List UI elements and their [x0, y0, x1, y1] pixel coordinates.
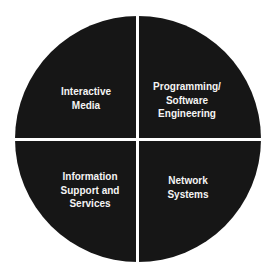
quadrant-label-line: Network	[167, 174, 208, 188]
quadrant-interactive-media: Interactive Media	[61, 85, 111, 112]
quadrant-network-systems: Network Systems	[167, 174, 208, 201]
quadrant-programming-software-engineering: Programming/ Software Engineering	[153, 80, 221, 121]
quadrant-label-line: Software	[153, 94, 221, 108]
quadrant-label-line: Support and	[61, 184, 120, 198]
quadrant-label-line: Systems	[167, 188, 208, 202]
quadrant-diagram: Interactive Media Programming/ Software …	[0, 0, 278, 275]
horizontal-divider	[0, 138, 278, 141]
quadrant-label-line: Interactive	[61, 85, 111, 99]
quadrant-label-line: Engineering	[153, 107, 221, 121]
quadrant-label-line: Media	[61, 99, 111, 113]
quadrant-label-line: Services	[61, 197, 120, 211]
quadrant-label-line: Programming/	[153, 80, 221, 94]
quadrant-information-support-services: Information Support and Services	[61, 170, 120, 211]
quadrant-label-line: Information	[61, 170, 120, 184]
